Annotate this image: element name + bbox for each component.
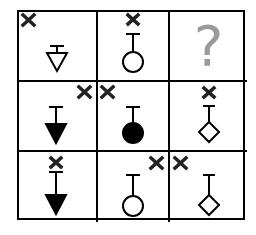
outline-diamond-stem-icon bbox=[170, 82, 247, 150]
puzzle-grid: ? bbox=[17, 10, 245, 220]
cell-r1-c3-answer: ? bbox=[170, 12, 247, 82]
cell-r2-c1 bbox=[19, 82, 98, 152]
cell-r3-c2 bbox=[98, 152, 170, 222]
cell-r1-c1 bbox=[19, 12, 98, 82]
solid-triangle-stem-icon bbox=[19, 152, 96, 222]
solid-circle-stem-icon bbox=[98, 82, 168, 150]
outline-circle-stem-icon bbox=[98, 152, 168, 222]
outline-triangle-stem-icon bbox=[19, 12, 96, 80]
outline-diamond-stem-icon bbox=[170, 152, 247, 222]
cell-r1-c2 bbox=[98, 12, 170, 82]
cell-r3-c3 bbox=[170, 152, 247, 222]
question-mark: ? bbox=[170, 12, 247, 80]
cell-r2-c3 bbox=[170, 82, 247, 152]
solid-triangle-stem-icon bbox=[19, 82, 96, 150]
outline-circle-stem-icon bbox=[98, 12, 168, 80]
cell-r3-c1 bbox=[19, 152, 98, 222]
cell-r2-c2 bbox=[98, 82, 170, 152]
